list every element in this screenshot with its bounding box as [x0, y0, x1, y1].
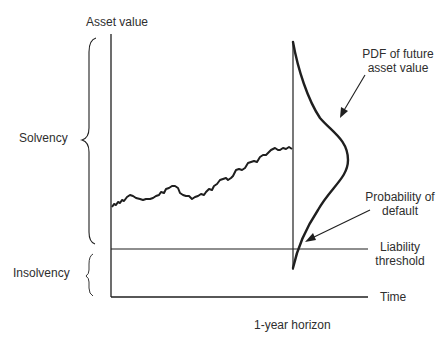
asset-value-path [112, 147, 292, 207]
probability-of-default-label: Probability of default [358, 190, 442, 218]
horizon-label: 1-year horizon [254, 318, 331, 332]
pdf-arrow [343, 75, 365, 112]
pdf-label: PDF of future asset value [356, 47, 440, 75]
solvency-brace [82, 38, 96, 244]
x-axis-label: Time [380, 290, 406, 304]
y-axis-label: Asset value [86, 15, 148, 29]
liability-threshold-label: Liability threshold [370, 240, 430, 268]
liability-label-line2: threshold [370, 254, 430, 268]
liability-label-line1: Liability [370, 240, 430, 254]
insolvency-brace [86, 254, 93, 296]
pdf-label-line1: PDF of future [356, 47, 440, 61]
pd-arrowhead-icon [305, 233, 316, 242]
pdf-label-line2: asset value [356, 61, 440, 75]
solvency-label: Solvency [19, 131, 68, 145]
pd-label-line1: Probability of [358, 190, 442, 204]
insolvency-label: Insolvency [13, 266, 70, 280]
pdf-arrowhead-icon [340, 107, 348, 118]
pd-label-line2: default [358, 204, 442, 218]
